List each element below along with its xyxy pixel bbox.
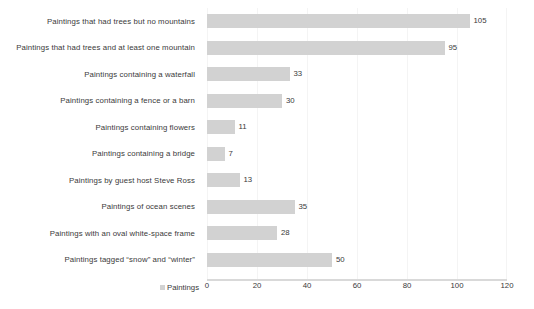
- bar-value-label: 95: [449, 44, 458, 52]
- bar-group: 105: [207, 8, 487, 35]
- bar-group: 95: [207, 35, 457, 62]
- category-label: Paintings containing flowers: [0, 114, 201, 141]
- legend: Paintings: [160, 283, 199, 292]
- bar-value-label: 13: [244, 176, 253, 184]
- category-label: Paintings that had trees and at least on…: [0, 35, 201, 62]
- bar: [207, 67, 290, 81]
- category-label: Paintings by guest host Steve Ross: [0, 167, 201, 194]
- category-label: Paintings that had trees but no mountain…: [0, 8, 201, 35]
- chart-rows: Paintings that had trees but no mountain…: [0, 8, 534, 279]
- category-label: Paintings with an oval white-space frame: [0, 220, 201, 247]
- bar-chart: Paintings that had trees but no mountain…: [0, 0, 534, 309]
- x-tick-label: 20: [253, 281, 262, 290]
- bar-value-label: 7: [229, 150, 233, 158]
- chart-row: Paintings tagged “snow” and “winter”50: [0, 247, 534, 274]
- category-label: Paintings containing a fence or a barn: [0, 88, 201, 115]
- bar: [207, 120, 235, 134]
- bar: [207, 94, 282, 108]
- bar: [207, 41, 445, 55]
- bar-value-label: 11: [239, 123, 247, 131]
- bar-group: 7: [207, 141, 233, 168]
- bar: [207, 14, 470, 28]
- chart-row: Paintings containing a bridge7: [0, 141, 534, 168]
- bar-group: 28: [207, 220, 290, 247]
- chart-row: Paintings containing flowers11: [0, 114, 534, 141]
- bar-group: 35: [207, 194, 307, 221]
- bar-value-label: 28: [281, 229, 290, 237]
- chart-row: Paintings by guest host Steve Ross13: [0, 167, 534, 194]
- x-tick-label: 40: [303, 281, 312, 290]
- bar-value-label: 35: [299, 203, 308, 211]
- bar-value-label: 50: [336, 256, 345, 264]
- bar-group: 11: [207, 114, 247, 141]
- chart-row: Paintings with an oval white-space frame…: [0, 220, 534, 247]
- chart-row: Paintings containing a fence or a barn30: [0, 88, 534, 115]
- category-label: Paintings tagged “snow” and “winter”: [0, 247, 201, 274]
- bar: [207, 200, 295, 214]
- bar: [207, 147, 225, 161]
- x-tick-label: 60: [353, 281, 362, 290]
- bar-value-label: 105: [474, 17, 487, 25]
- x-tick-label: 0: [205, 281, 209, 290]
- chart-row: Paintings of ocean scenes35: [0, 194, 534, 221]
- legend-swatch-paintings: [160, 285, 165, 290]
- bar-group: 30: [207, 88, 295, 115]
- bar: [207, 253, 332, 267]
- x-tick-label: 80: [403, 281, 412, 290]
- bar-value-label: 33: [294, 70, 303, 78]
- x-axis-ticks: 020406080100120: [0, 281, 534, 297]
- x-tick-label: 100: [450, 281, 463, 290]
- chart-row: Paintings that had trees and at least on…: [0, 35, 534, 62]
- bar: [207, 173, 240, 187]
- bar-value-label: 30: [286, 97, 295, 105]
- category-label: Paintings containing a waterfall: [0, 61, 201, 88]
- category-label: Paintings containing a bridge: [0, 141, 201, 168]
- legend-label-paintings: Paintings: [167, 283, 199, 292]
- chart-row: Paintings containing a waterfall33: [0, 61, 534, 88]
- chart-row: Paintings that had trees but no mountain…: [0, 8, 534, 35]
- bar-group: 50: [207, 247, 345, 274]
- bar: [207, 226, 277, 240]
- category-label: Paintings of ocean scenes: [0, 194, 201, 221]
- bar-group: 33: [207, 61, 302, 88]
- bar-group: 13: [207, 167, 252, 194]
- x-tick-label: 120: [500, 281, 513, 290]
